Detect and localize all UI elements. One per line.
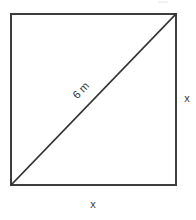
figure-canvas	[0, 0, 196, 220]
geometry-figure: x x 6 m	[0, 0, 196, 220]
label-side-bottom: x	[87, 199, 99, 210]
label-side-right: x	[181, 93, 193, 104]
scan-artifact	[158, 1, 168, 3]
diagonal-line	[11, 14, 176, 185]
